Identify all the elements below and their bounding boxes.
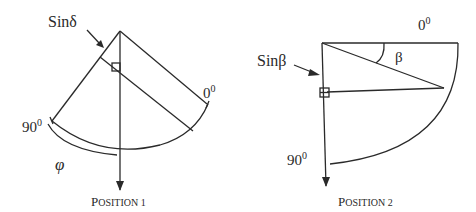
arrowhead-icon — [116, 181, 124, 191]
beta-angle-arc — [376, 43, 384, 63]
radius-line — [322, 43, 444, 88]
angle-0-label-p1: 00 — [203, 83, 216, 101]
diagram-canvas: Sinδ 00 900 φ POSITION 1 Sinβ 00 β — [0, 0, 476, 212]
sector-arc — [52, 104, 208, 149]
projection-line — [100, 57, 193, 131]
sin-delta-pointer — [87, 30, 100, 44]
angle-90-label-p2: 900 — [287, 150, 307, 168]
arrowhead-icon-p2 — [322, 177, 330, 187]
position-2-figure — [294, 43, 458, 187]
sector-left-edge — [52, 31, 120, 121]
angle-0-label-p2: 00 — [418, 15, 431, 33]
tick-0 — [206, 101, 209, 108]
position-1-caption: POSITION 1 — [91, 194, 146, 209]
quarter-arc — [330, 43, 458, 164]
sector-right-edge — [120, 31, 207, 104]
vertical-arrow-p2 — [322, 43, 326, 186]
phi-label: φ — [55, 155, 64, 174]
pointer-arrowhead-icon-p2 — [308, 69, 320, 76]
position-2-caption: POSITION 2 — [338, 194, 393, 209]
projection-line-p2 — [327, 88, 444, 92]
sin-delta-label: Sinδ — [48, 13, 77, 30]
angle-90-label-p1: 900 — [22, 117, 42, 135]
sin-beta-label: Sinβ — [257, 52, 286, 70]
beta-label: β — [395, 49, 403, 65]
position-1-figure — [48, 30, 209, 191]
